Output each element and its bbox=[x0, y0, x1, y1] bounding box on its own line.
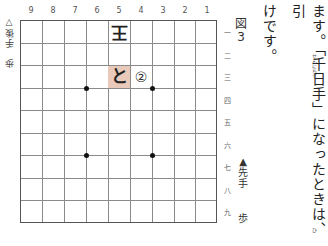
gote-label-char: 後 bbox=[3, 28, 15, 38]
star-point bbox=[84, 86, 89, 91]
board-square-5-3[interactable]: と bbox=[108, 66, 130, 89]
column-number: 8 bbox=[42, 6, 64, 15]
row-number: 八 bbox=[221, 185, 233, 195]
sente-hand-pieces: 歩 bbox=[237, 210, 249, 225]
row-number: 六 bbox=[221, 140, 233, 150]
grid-line bbox=[108, 21, 109, 222]
gote-hand-pieces: 歩 bbox=[3, 58, 15, 68]
star-point bbox=[150, 86, 155, 91]
row-number: 七 bbox=[221, 162, 233, 172]
body-text-line-2: けです。 bbox=[259, 4, 279, 64]
gote-label-char: 手 bbox=[3, 38, 15, 48]
grid-line bbox=[21, 133, 216, 134]
grid-line bbox=[195, 21, 196, 222]
sente-label: ▲ 先 手 bbox=[237, 156, 249, 189]
sente-label-char: 手 bbox=[237, 178, 249, 189]
grid-line bbox=[21, 178, 216, 179]
sente-triangle-icon: ▲ bbox=[237, 156, 249, 167]
grid-line bbox=[21, 200, 216, 201]
column-number: 7 bbox=[64, 6, 86, 15]
tokin-piece: と bbox=[111, 68, 128, 85]
star-point bbox=[150, 153, 155, 158]
row-number: 二 bbox=[221, 50, 233, 60]
column-number: 4 bbox=[130, 6, 152, 15]
grid-line bbox=[64, 21, 65, 222]
king-piece: 王 bbox=[111, 24, 128, 41]
board-square-4-3[interactable]: ② bbox=[130, 66, 152, 89]
row-number: 五 bbox=[221, 117, 233, 127]
grid-line bbox=[86, 21, 87, 222]
ruby-hiki: ひ bbox=[311, 228, 318, 233]
row-number: 三 bbox=[221, 72, 233, 82]
column-number: 9 bbox=[20, 6, 42, 15]
grid-line bbox=[21, 155, 216, 156]
column-number: 3 bbox=[152, 6, 174, 15]
figure-label: 図 3 bbox=[234, 18, 248, 44]
board-square-5-1[interactable]: 王 bbox=[108, 21, 130, 44]
gote-label: 歩 手 後 ▽ bbox=[3, 18, 15, 68]
grid-line bbox=[21, 110, 216, 111]
shogi-board: 王 と ② bbox=[20, 20, 217, 223]
grid-line bbox=[42, 21, 43, 222]
column-number: 1 bbox=[196, 6, 218, 15]
column-number: 2 bbox=[174, 6, 196, 15]
grid-line bbox=[152, 21, 153, 222]
row-number: 四 bbox=[221, 95, 233, 105]
star-point bbox=[84, 153, 89, 158]
row-number: 一 bbox=[221, 27, 233, 37]
grid-line bbox=[174, 21, 175, 222]
sente-label-char: 先 bbox=[237, 167, 249, 178]
move-marker-2: ② bbox=[135, 70, 148, 84]
row-number: 九 bbox=[221, 207, 233, 217]
ruby-sennichite: せんにちて bbox=[311, 54, 318, 79]
gote-triangle-icon: ▽ bbox=[3, 18, 15, 28]
column-number: 5 bbox=[108, 6, 130, 15]
column-number: 6 bbox=[86, 6, 108, 15]
figure-label-number: 3 bbox=[234, 31, 248, 44]
grid-line bbox=[130, 21, 131, 222]
body-text-line-1: ます。「千日手」になったときは、引 bbox=[288, 4, 328, 246]
gote-spacer bbox=[3, 48, 15, 58]
